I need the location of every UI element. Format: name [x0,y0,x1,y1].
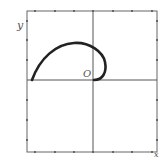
origin-label: O [83,69,91,79]
plot-frame [27,11,157,152]
polar-curve-diagram [0,0,162,159]
tick-marks [26,10,158,153]
curve [32,43,106,80]
y-axis-label: y [17,20,23,31]
x-axis-label: x [154,151,159,159]
